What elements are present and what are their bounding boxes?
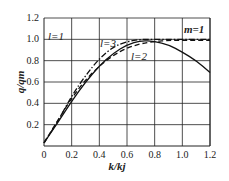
y-tick-label: 0.6 bbox=[27, 76, 40, 87]
x-tick-label: 0.6 bbox=[121, 149, 134, 160]
y-tick-label: 0.8 bbox=[27, 55, 40, 66]
annotation-l1: l=1 bbox=[48, 30, 64, 42]
y-axis-label: q/qm bbox=[14, 70, 26, 93]
x-tick-label: 1.0 bbox=[176, 149, 189, 160]
x-axis-label: k/kj bbox=[108, 160, 126, 172]
y-tick-label: 1.2 bbox=[27, 12, 40, 23]
y-tick-label: 1.0 bbox=[27, 33, 40, 44]
annotation-m1: m=1 bbox=[184, 23, 204, 35]
x-tick-label: 0.8 bbox=[148, 149, 161, 160]
x-tick-label: 0.4 bbox=[93, 149, 106, 160]
grid bbox=[44, 18, 210, 146]
x-tick-label: 0.2 bbox=[65, 149, 78, 160]
y-tick-label: 0.2 bbox=[27, 119, 40, 130]
x-tick-label: 1.2 bbox=[204, 149, 217, 160]
y-tick-label: 0.4 bbox=[27, 97, 40, 108]
x-tick-label: 0 bbox=[42, 149, 47, 160]
annotation-l3: l=3 bbox=[100, 37, 116, 49]
annotation-l2: l=2 bbox=[131, 50, 147, 62]
chart: 00.20.40.60.81.01.20.20.40.60.81.01.2 l=… bbox=[0, 0, 229, 181]
